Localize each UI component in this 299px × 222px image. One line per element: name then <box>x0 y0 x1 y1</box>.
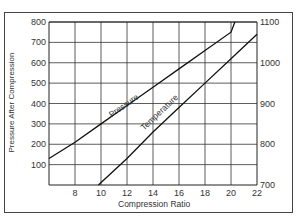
x-tick-label: 12 <box>122 188 132 198</box>
y-tick-label: 400 <box>31 99 46 109</box>
x-tick-label: 16 <box>174 188 184 198</box>
y-tick-label: 300 <box>31 119 46 129</box>
y-right-tick-label: 800 <box>260 139 275 149</box>
y-right-tick-label: 1100 <box>260 17 279 27</box>
line-chart: 8101214161820221002003004005006007008007… <box>0 0 299 222</box>
x-tick-label: 18 <box>200 188 210 198</box>
series-label-pressure: Pressure <box>107 91 141 119</box>
x-tick-label: 20 <box>226 188 236 198</box>
x-axis-label: Compression Ratio <box>118 199 190 209</box>
y-tick-label: 600 <box>31 58 46 68</box>
y-right-tick-label: 700 <box>260 180 275 190</box>
y-tick-label: 100 <box>31 160 46 170</box>
y-right-tick-label: 1000 <box>260 58 280 68</box>
y-tick-label: 700 <box>31 37 46 47</box>
y-tick-label: 500 <box>31 78 46 88</box>
x-tick-label: 8 <box>72 188 77 198</box>
x-tick-label: 14 <box>148 188 158 198</box>
x-tick-label: 10 <box>96 188 106 198</box>
y-axis-label: Pressure After Compression <box>7 40 16 166</box>
y-tick-label: 200 <box>31 139 46 149</box>
y-tick-label: 800 <box>31 17 46 27</box>
y-right-tick-label: 900 <box>260 99 275 109</box>
